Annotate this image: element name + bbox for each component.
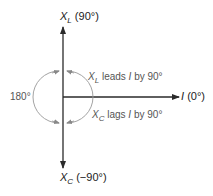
current-symbol: I (181, 90, 184, 102)
current-axis-label: I (0°) (181, 91, 205, 102)
xc-lags-annotation: XC lags I by 90° (92, 110, 162, 123)
arc-180-left (33, 71, 59, 123)
xl-subscript: L (67, 16, 71, 25)
angle-180-label: 180° (10, 92, 31, 102)
xl-angle: (90°) (75, 10, 99, 22)
current-angle: (0°) (187, 90, 205, 102)
xl-leads-annotation: XL leads I by 90° (88, 72, 163, 85)
xc-subscript: C (67, 177, 73, 186)
xl-axis-label: XL (90°) (60, 11, 99, 25)
xc-angle: (−90°) (76, 171, 106, 183)
xc-axis-label: XC (−90°) (60, 172, 107, 186)
